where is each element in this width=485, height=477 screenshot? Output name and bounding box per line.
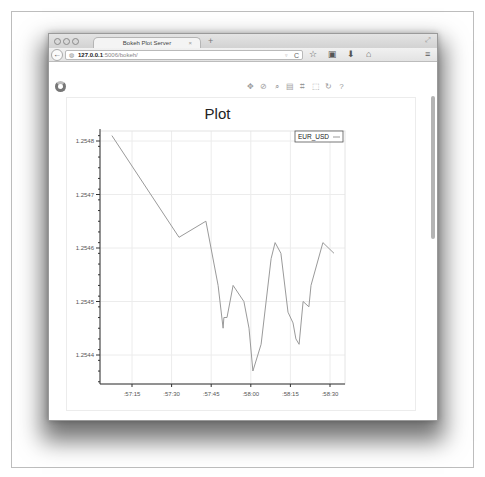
tab-title: Bokeh Plot Server (123, 40, 171, 46)
new-tab-button[interactable]: + (208, 36, 213, 46)
downloads-icon[interactable]: ⬇ (347, 49, 355, 59)
globe-icon: ◍ (69, 51, 74, 60)
x-tick-label: :58:30 (322, 391, 339, 397)
x-tick-label: :58:15 (282, 391, 299, 397)
url-host: 127.0.0.1 (78, 52, 103, 58)
minimize-window-button[interactable] (63, 38, 70, 45)
legend-label: EUR_USD (298, 133, 329, 141)
back-button[interactable]: ← (51, 49, 63, 61)
x-tick-label: :57:45 (203, 391, 220, 397)
url-bar[interactable]: ◍ 127.0.0.1:5006/bokeh/ ▿ C (65, 50, 303, 60)
x-tick-label: :57:30 (163, 391, 180, 397)
page-content: ✥⊘⌕▤⌗⬚↻? Plot 1.25481.25471.25461.25451.… (49, 63, 437, 421)
y-tick-label: 1.2544 (76, 352, 95, 358)
zoom-window-button[interactable] (72, 38, 79, 45)
series-line-eur-usd[interactable] (112, 136, 334, 371)
navigation-bar: ← ◍ 127.0.0.1:5006/bokeh/ ▿ C ☆ ▣ ⬇ ⌂ ≡ (49, 48, 437, 62)
browser-window: Bokeh Plot Server × + ⤢ ← ◍ 127.0.0.1:50… (48, 33, 438, 421)
title-bar: Bokeh Plot Server × + ⤢ (49, 34, 437, 48)
y-tick-label: 1.2545 (76, 299, 95, 305)
bookmarks-list-icon[interactable]: ▣ (328, 49, 337, 59)
line-chart[interactable]: 1.25481.25471.25461.25451.2544:57:15:57:… (49, 63, 438, 421)
fullscreen-icon[interactable]: ⤢ (425, 36, 431, 44)
close-window-button[interactable] (54, 38, 61, 45)
x-tick-label: :58:00 (242, 391, 259, 397)
y-tick-label: 1.2548 (76, 138, 95, 144)
plot-area (100, 131, 345, 384)
y-tick-label: 1.2547 (76, 192, 95, 198)
x-tick-label: :57:15 (124, 391, 141, 397)
home-icon[interactable]: ⌂ (366, 49, 371, 59)
menu-icon[interactable]: ≡ (425, 49, 430, 59)
y-tick-label: 1.2546 (76, 245, 95, 251)
url-path: :5006/bokeh/ (103, 52, 138, 58)
url-dropdown-icon[interactable]: ▿ (285, 51, 288, 60)
bookmark-star-icon[interactable]: ☆ (309, 49, 317, 59)
back-arrow-icon: ← (53, 50, 61, 59)
reload-icon[interactable]: C (294, 51, 299, 60)
